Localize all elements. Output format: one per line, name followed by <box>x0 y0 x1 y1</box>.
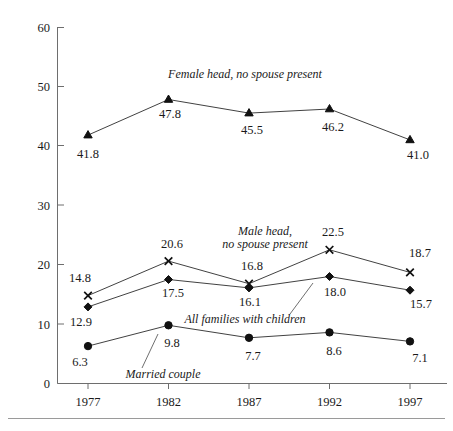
value-label-male-1982: 20.6 <box>161 237 183 251</box>
value-label-married-1997: 7.1 <box>412 351 428 365</box>
annotation-male-head-line1: Male head, <box>237 224 292 238</box>
annotation-male-head-line2: no spouse present <box>222 237 308 251</box>
y-axis <box>58 27 65 384</box>
y-tick-label-40: 40 <box>38 139 51 153</box>
marker-diamond-1997 <box>406 286 414 294</box>
value-label-all-1997: 15.7 <box>410 297 432 311</box>
value-label-male-1997: 18.7 <box>409 246 431 260</box>
x-tick-label-1997: 1997 <box>398 395 423 409</box>
marker-x-1992 <box>326 246 334 254</box>
marker-circle-1997 <box>406 338 413 345</box>
value-label-female-1987: 45.5 <box>241 123 263 137</box>
y-tick-label-50: 50 <box>38 80 51 94</box>
marker-x-1997 <box>406 269 414 277</box>
value-label-female-1997: 41.0 <box>407 148 429 162</box>
value-label-male-1977: 14.8 <box>69 271 91 285</box>
marker-diamond-1982 <box>165 276 173 284</box>
series-married-couple: 6.3 9.8 7.7 8.6 7.1 Married couple <box>72 322 428 381</box>
value-label-all-1982: 17.5 <box>162 286 184 300</box>
value-label-all-1977: 12.9 <box>70 315 92 329</box>
y-tick-label-0: 0 <box>44 377 50 391</box>
annotation-female-head: Female head, no spouse present <box>167 67 323 81</box>
value-label-married-1987: 7.7 <box>245 349 261 363</box>
marker-triangle-1982 <box>164 95 172 102</box>
marker-circle-1992 <box>326 329 333 336</box>
marker-diamond-1987 <box>245 284 253 292</box>
marker-diamond-1992 <box>326 273 334 281</box>
marker-x-1982 <box>165 257 173 265</box>
x-axis <box>58 384 448 390</box>
marker-circle-1977 <box>84 342 91 349</box>
x-tick-label-1992: 1992 <box>317 395 342 409</box>
value-label-all-1992: 18.0 <box>324 285 346 299</box>
marker-x-1977 <box>84 292 92 300</box>
chart-canvas: 60 50 40 30 20 10 0 1977 1982 1987 1992 … <box>0 0 453 431</box>
y-tick-label-10: 10 <box>38 318 51 332</box>
value-label-male-1992: 22.5 <box>322 225 344 239</box>
leader-line-married-couple <box>142 334 158 368</box>
value-label-male-1987: 16.8 <box>241 259 263 273</box>
value-label-married-1982: 9.8 <box>164 336 180 350</box>
series-female-head: 41.8 47.8 45.5 46.2 41.0 Female head, no… <box>77 67 429 162</box>
annotation-married-couple: Married couple <box>125 367 202 381</box>
y-tick-label-20: 20 <box>38 258 51 272</box>
y-tick-label-30: 30 <box>38 199 51 213</box>
value-label-married-1992: 8.6 <box>326 344 342 358</box>
value-label-married-1977: 6.3 <box>72 355 88 369</box>
value-label-female-1992: 46.2 <box>322 120 344 134</box>
x-tick-label-1987: 1987 <box>237 395 262 409</box>
marker-circle-1982 <box>165 322 172 329</box>
leader-line-all-families <box>290 283 313 314</box>
annotation-all-families: All families with children <box>183 312 305 326</box>
value-label-female-1982: 47.8 <box>159 107 181 121</box>
value-label-all-1987: 16.1 <box>239 295 261 309</box>
x-tick-label-1977: 1977 <box>76 395 101 409</box>
marker-triangle-1992 <box>325 105 333 112</box>
value-label-female-1977: 41.8 <box>77 147 99 161</box>
x-tick-label-1982: 1982 <box>156 395 181 409</box>
y-tick-label-60: 60 <box>38 21 51 35</box>
marker-diamond-1977 <box>84 303 92 311</box>
marker-circle-1987 <box>245 334 252 341</box>
line-chart-figure: 60 50 40 30 20 10 0 1977 1982 1987 1992 … <box>0 0 453 431</box>
